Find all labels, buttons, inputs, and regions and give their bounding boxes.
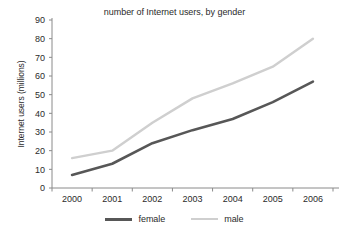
svg-text:30: 30 [35, 127, 45, 137]
svg-text:90: 90 [35, 15, 45, 25]
svg-text:60: 60 [35, 71, 45, 81]
legend-label-male: male [224, 214, 243, 224]
svg-text:80: 80 [35, 34, 45, 44]
svg-text:2001: 2001 [102, 194, 122, 204]
svg-text:40: 40 [35, 109, 45, 119]
legend-item-male[interactable]: male [191, 214, 243, 224]
svg-text:2005: 2005 [263, 194, 283, 204]
svg-text:10: 10 [35, 165, 45, 175]
svg-text:70: 70 [35, 53, 45, 63]
svg-text:0: 0 [40, 183, 45, 193]
svg-text:20: 20 [35, 146, 45, 156]
legend-swatch-male [191, 218, 218, 221]
svg-text:2006: 2006 [303, 194, 323, 204]
plot-area: 0102030405060708090 20002001200220032004… [0, 0, 349, 231]
svg-text:2003: 2003 [182, 194, 202, 204]
chart-legend: female male [0, 214, 349, 224]
legend-label-female: female [138, 214, 165, 224]
x-axis-ticks: 2000200120022003200420052006 [52, 188, 333, 204]
data-series-layer [72, 39, 313, 175]
svg-text:2000: 2000 [62, 194, 82, 204]
legend-item-female[interactable]: female [105, 214, 165, 224]
legend-swatch-female [105, 218, 132, 221]
chart-container: number of Internet users, by gender Inte… [0, 0, 349, 231]
y-axis-ticks: 0102030405060708090 [35, 15, 52, 193]
svg-text:50: 50 [35, 90, 45, 100]
svg-text:2002: 2002 [142, 194, 162, 204]
svg-text:2004: 2004 [223, 194, 243, 204]
